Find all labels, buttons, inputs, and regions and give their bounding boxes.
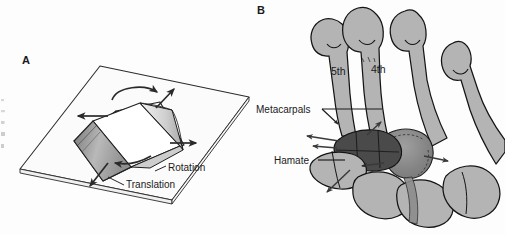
figure-svg: A — [0, 0, 505, 235]
panel-a-letter: A — [22, 54, 30, 66]
metacarpals-label: Metacarpals — [256, 104, 310, 115]
fifth-digit-label: 5th — [331, 65, 346, 77]
rotation-label: Rotation — [168, 162, 205, 173]
fourth-digit-label: 4th — [371, 63, 386, 75]
figure-container: A — [0, 0, 505, 235]
hamate-label: Hamate — [274, 155, 309, 166]
translation-label: Translation — [126, 179, 175, 190]
panel-b-letter: B — [257, 4, 265, 16]
